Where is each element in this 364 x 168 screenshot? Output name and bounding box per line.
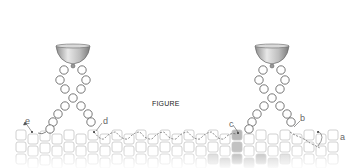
figure-diagram: e d c b a FIGURE [0,0,364,168]
diagram-canvas: e d c b a [0,0,364,168]
bead-chain-left [46,66,95,133]
figure-caption: FIGURE [152,100,180,107]
label-d: d [103,116,108,126]
label-e: e [25,116,30,126]
label-a: a [340,132,345,142]
label-c: c [229,119,234,129]
tile-lattice [0,130,364,168]
bead-chain-right [245,66,295,133]
bowl-icon [255,46,289,64]
bowl-icon [56,46,90,64]
label-b: b [300,113,305,123]
tile-row-1 [16,130,338,144]
left-holder [38,44,95,134]
right-holder [245,44,295,133]
